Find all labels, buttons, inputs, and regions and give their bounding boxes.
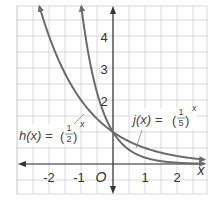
origin-label: O: [96, 169, 107, 185]
x-axis-left-arrow: [18, 161, 26, 167]
h-paren-close: ): [73, 129, 77, 144]
h-numerator: 1: [66, 123, 71, 133]
h-paren-open: (: [60, 129, 65, 144]
j-paren-close: ): [185, 113, 189, 128]
y-axis-up-arrow: [110, 6, 116, 14]
x-tick-2: 2: [173, 170, 180, 185]
h-denominator: 2: [66, 134, 71, 144]
j-label-prefix: j(x) =: [131, 112, 163, 127]
h-exponent: x: [79, 119, 85, 129]
y-tick-2: 2: [100, 94, 107, 109]
y-axis-down-arrow: [110, 186, 116, 194]
x-axis-label: x: [197, 162, 206, 178]
h-function-label: h(x) = ( 1 2 ) x: [18, 114, 85, 146]
y-tick-4: 4: [100, 30, 107, 45]
j-exponent: x: [191, 103, 197, 113]
graph: -2 -1 1 2 O x 2 3 4 h(x) = ( 1 2 ) x j(x…: [0, 0, 216, 205]
y-tick-labels: 2 3 4: [100, 30, 107, 109]
j-function-label: j(x) = ( 1 5 ) x: [130, 103, 197, 148]
x-tick--2: -2: [43, 170, 55, 185]
h-label-prefix: h(x) =: [19, 128, 53, 143]
y-tick-3: 3: [100, 62, 107, 77]
x-tick-labels: -2 -1 1 2 O x: [43, 162, 205, 185]
x-tick-1: 1: [141, 170, 148, 185]
grid: [17, 6, 207, 194]
j-paren-open: (: [172, 113, 177, 128]
j-denominator: 5: [178, 118, 183, 128]
x-tick--1: -1: [73, 170, 85, 185]
j-numerator: 1: [178, 107, 183, 117]
